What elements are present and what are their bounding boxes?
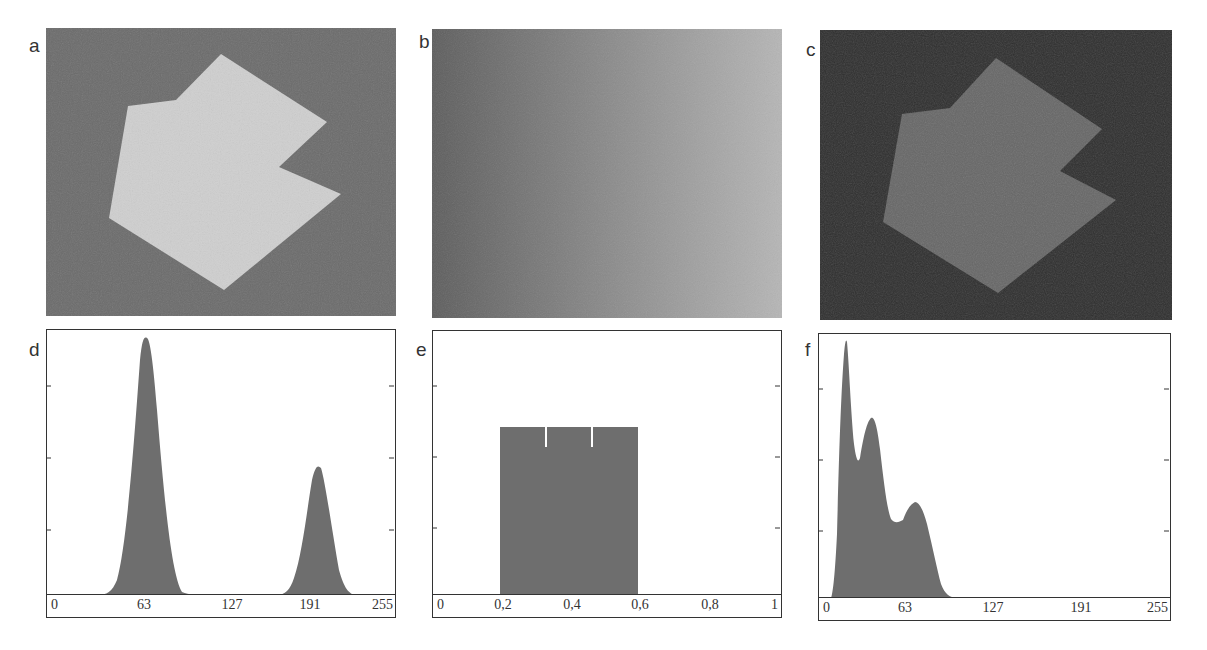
panel-label-e: e: [416, 340, 427, 359]
panel-label-a: a: [29, 36, 40, 55]
histogram-d-bars: [47, 338, 394, 595]
image-b-gradient: [432, 29, 782, 318]
panel-label-c: c: [806, 40, 816, 59]
tick-label: 0,4: [563, 597, 581, 613]
histogram-f-x-axis: 0 63 127 191 255: [819, 597, 1170, 620]
image-c-product: [820, 30, 1172, 320]
tick-label: 0: [51, 597, 58, 613]
histogram-e: 0 0,2 0,4 0,6 0,8 1: [432, 330, 782, 618]
histogram-d-plot: [47, 330, 394, 595]
tick-label: 63: [137, 597, 151, 613]
tick-label: 63: [898, 600, 912, 616]
histogram-e-bars: [500, 427, 638, 595]
tick-label: 0: [437, 597, 444, 613]
tick-label: 127: [222, 597, 243, 613]
histogram-d: 0 63 127 191 255: [46, 329, 396, 618]
tick-label: 0,8: [701, 597, 719, 613]
histogram-f-bars: [819, 341, 1169, 599]
panel-label-b: b: [419, 32, 430, 51]
tick-label: 127: [983, 600, 1004, 616]
tick-label: 191: [300, 597, 321, 613]
tick-label: 0,6: [631, 597, 649, 613]
tick-label: 255: [1147, 600, 1168, 616]
tick-label: 191: [1071, 600, 1092, 616]
panel-label-f: f: [805, 340, 810, 359]
histogram-e-x-axis: 0 0,2 0,4 0,6 0,8 1: [433, 594, 781, 617]
histogram-d-x-axis: 0 63 127 191 255: [47, 594, 395, 617]
panel-label-d: d: [29, 340, 40, 359]
histogram-f-plot: [819, 334, 1169, 598]
histogram-e-plot: [433, 331, 780, 595]
histogram-f: 0 63 127 191 255: [818, 333, 1171, 621]
image-a-binary-shape: [46, 28, 396, 316]
tick-label: 0,2: [494, 597, 512, 613]
tick-label: 255: [372, 597, 393, 613]
tick-label: 0: [823, 600, 830, 616]
tick-label: 1: [771, 597, 778, 613]
